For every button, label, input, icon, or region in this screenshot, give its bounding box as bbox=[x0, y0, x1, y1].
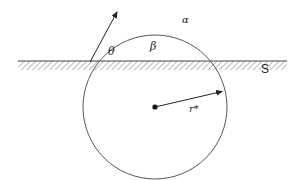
solid-surface bbox=[18, 61, 287, 70]
contact-angle-diagram: θ β α S r* bbox=[0, 0, 302, 180]
label-radius: r* bbox=[189, 103, 199, 114]
label-theta: θ bbox=[108, 45, 115, 58]
label-alpha: α bbox=[182, 14, 189, 25]
label-surface: S bbox=[261, 62, 269, 76]
label-beta: β bbox=[149, 40, 156, 53]
